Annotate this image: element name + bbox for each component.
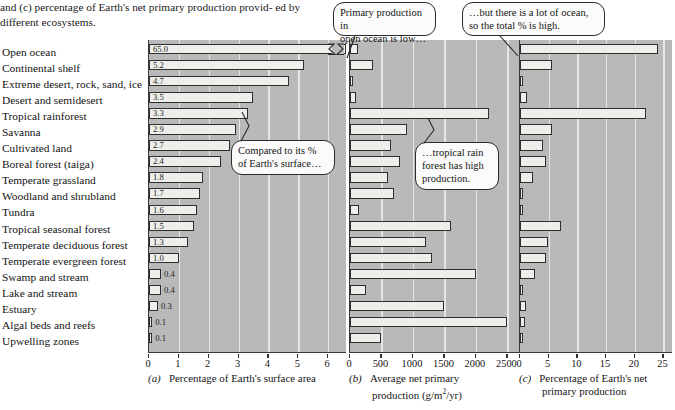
ecosystem-label: Estuary: [2, 301, 148, 317]
bar: [520, 92, 527, 102]
ecosystem-label: Boreal forest (taiga): [2, 156, 148, 172]
ecosystem-label: Cultivated land: [2, 140, 148, 156]
panel-c-caption: (c) Percentage of Earth's net primary pr…: [519, 372, 675, 398]
gridline: [606, 40, 607, 352]
ecosystem-label: Temperate evergreen forest: [2, 253, 148, 269]
callout-compared-surface-line1: Compared to its %: [238, 144, 328, 157]
callout-compared-surface-pointer: [225, 112, 275, 144]
gridline: [444, 40, 445, 352]
ecosystem-label: Temperate grassland: [2, 172, 148, 188]
bar-value-label: 1.5: [153, 221, 164, 231]
bar: [149, 301, 158, 311]
bar: [149, 269, 161, 279]
callout-total-high-line1: …but there is a lot of ocean,: [469, 6, 598, 19]
callout-rainforest-high-line3: production.: [422, 172, 492, 185]
bar: [520, 269, 535, 279]
axis-tick-label: 0: [333, 358, 365, 369]
bar-value-label: 0.1: [155, 317, 166, 327]
axis-tick-label: 3: [222, 358, 254, 369]
bar-value-label: 2.9: [153, 124, 164, 134]
gridline: [577, 40, 578, 352]
bar-value-label: 0.4: [164, 269, 175, 279]
bar: [149, 333, 152, 343]
ecosystem-label: Extreme desert, rock, sand, ice: [2, 76, 148, 92]
panel-c: 0510152025: [519, 40, 673, 354]
panel-a-axis-title: Percentage of Earth's surface area: [169, 372, 316, 384]
bar: [149, 285, 161, 295]
bar: [350, 92, 356, 102]
bar: [149, 317, 152, 327]
axis-tick-label: 1500: [427, 358, 459, 369]
gridline: [239, 40, 240, 352]
axis-tick-label: 1000: [396, 358, 428, 369]
bar-value-label: 1.0: [153, 253, 164, 263]
axis-tick-label: 25: [646, 358, 675, 369]
bar: [520, 124, 552, 134]
bar: [350, 172, 388, 182]
axis-tick-label: 2000: [459, 358, 491, 369]
axis-tick-label: 1: [162, 358, 194, 369]
bar: [149, 92, 253, 102]
gridline: [663, 40, 664, 352]
bar-value-label: 0.1: [155, 333, 166, 343]
bar: [350, 301, 444, 311]
bar: [350, 333, 381, 343]
bar-value-label: 4.7: [153, 76, 164, 86]
ecosystem-label: Continental shelf: [2, 60, 148, 76]
bar-value-label: 1.3: [153, 237, 164, 247]
callout-compared-surface: Compared to its % of Earth's surface…: [231, 140, 335, 175]
axis-tick-label: 2: [192, 358, 224, 369]
bar: [520, 205, 523, 215]
bar: [350, 285, 366, 295]
figure-caption: and (c) percentage of Earth's net primar…: [0, 0, 310, 29]
bar: [520, 188, 523, 198]
bar: [350, 205, 359, 215]
ecosystem-label: Tropical seasonal forest: [2, 221, 148, 237]
axis-tick-label: 20: [618, 358, 650, 369]
ecosystem-label: Tropical rainforest: [2, 108, 148, 124]
panel-b: 05001000150020002500: [349, 40, 521, 354]
bar: [520, 76, 523, 86]
bar: [520, 156, 546, 166]
bar: [350, 253, 432, 263]
ecosystem-label: Temperate deciduous forest: [2, 237, 148, 253]
callout-rainforest-high-line2: forest has high: [422, 159, 492, 172]
bar: [350, 221, 451, 231]
bar-value-label: 1.7: [153, 188, 164, 198]
ecosystem-label: Upwelling zones: [2, 333, 148, 349]
bar: [520, 301, 526, 311]
ecosystem-label: Savanna: [2, 124, 148, 140]
bar-value-label: 2.7: [153, 140, 164, 150]
axis-tick-label: 0: [503, 358, 535, 369]
axis-tick-label: 15: [589, 358, 621, 369]
axis-tick-label: 10: [560, 358, 592, 369]
ecosystem-label-column: Open oceanContinental shelfExtreme deser…: [2, 44, 148, 349]
bar-value-label: 3.5: [153, 92, 164, 102]
panel-b-caption: (b) Average net primary production (g/m2…: [349, 372, 514, 402]
ecosystem-label: Woodland and shrubland: [2, 188, 148, 204]
panel-b-units-pre: production (g/m: [372, 389, 442, 401]
ecosystem-label: Swamp and stream: [2, 269, 148, 285]
bar: [520, 221, 561, 231]
panel-a-letter: (a): [148, 372, 161, 384]
ecosystem-label: Open ocean: [2, 44, 148, 60]
bar: [350, 237, 426, 247]
axis-tick-label: 0: [132, 358, 164, 369]
callout-open-ocean-low-line1: Primary production in: [340, 6, 429, 32]
panel-b-units-post: /yr): [446, 389, 462, 401]
panel-b-axis-title-line1: Average net primary: [370, 372, 459, 384]
bar-value-label: 65.0: [153, 44, 168, 54]
bar-value-label: 1.8: [153, 172, 164, 182]
bar: [520, 237, 548, 247]
bar: [520, 44, 658, 54]
bar: [520, 172, 533, 182]
bar-value-label: 3.3: [153, 108, 164, 118]
panel-c-axis-title-line2: primary production: [519, 385, 675, 398]
bar: [149, 44, 332, 54]
gridline: [209, 40, 210, 352]
panel-a-caption: (a) Percentage of Earth's surface area: [148, 372, 348, 385]
callout-compared-surface-line2: of Earth's surface…: [238, 157, 328, 170]
bar: [350, 317, 507, 327]
bar-value-label: 0.3: [161, 301, 172, 311]
bar: [520, 285, 523, 295]
